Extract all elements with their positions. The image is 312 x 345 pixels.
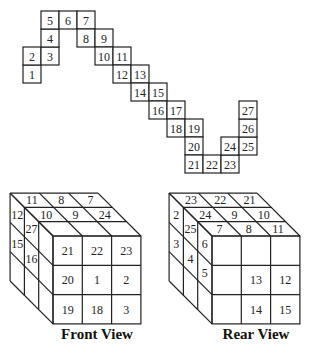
net-cell-label: 24 [224,140,236,154]
top-face-label: 8 [58,193,64,207]
front-face-label: 1 [94,273,100,287]
front-face-label: 23 [120,244,132,258]
net-cell-label: 16 [152,104,164,118]
front-face-label: 13 [250,273,262,287]
net-cell-label: 19 [188,122,200,136]
rear-view-caption: Rear View [223,326,290,342]
net-cell-label: 7 [83,14,89,28]
net-cell-label: 22 [206,158,218,172]
net-cell-label: 20 [188,140,200,154]
net-cell-label: 25 [242,140,254,154]
top-face-label: 8 [246,222,252,236]
top-face-label: 11 [26,193,38,207]
net-cell-label: 2 [29,50,35,64]
net-cell-label: 17 [170,104,182,118]
top-face-label: 7 [217,222,223,236]
net-cell-label: 4 [47,32,53,46]
cube-net-diagram: 1234567891011121314151617181920212223242… [0,0,312,345]
top-face-label: 24 [99,208,111,222]
front-view-cube: 21222320121918311871092412271516 [10,193,141,324]
net-cell-label: 21 [188,158,200,172]
front-face-label: 22 [91,244,103,258]
net-cell-label: 15 [152,86,164,100]
front-face-label: 2 [123,273,129,287]
top-face-label: 23 [185,193,197,207]
net-cell-label: 3 [47,50,53,64]
front-view-caption: Front View [61,326,133,342]
net-cell-label: 23 [224,158,236,172]
front-face-label: 15 [279,303,291,317]
top-face-label: 9 [232,208,238,222]
front-face-label: 20 [62,273,74,287]
net-cell-label: 26 [242,122,254,136]
rear-view-cube: 131214152322212491078112256345 [169,193,300,324]
top-face-label: 11 [272,222,284,236]
net-cell-label: 9 [101,32,107,46]
front-face-label: 19 [62,303,74,317]
top-face-label: 7 [88,193,94,207]
left-face-label: 6 [202,237,208,251]
top-face-label: 10 [40,208,52,222]
net-cell-label: 14 [134,86,146,100]
front-face-label: 14 [250,303,262,317]
left-face-label: 16 [26,252,38,266]
front-face-label: 12 [279,273,291,287]
net-cell-label: 11 [116,50,128,64]
left-face-label: 15 [11,237,23,251]
top-face-label: 10 [258,208,270,222]
left-face-label: 5 [202,266,208,280]
net-cell-label: 1 [29,68,35,82]
net-cell-label: 27 [242,104,254,118]
top-face-label: 22 [214,193,226,207]
unfolded-cube-net: 1234567891011121314151617181920212223242… [23,11,257,173]
top-face-label: 9 [73,208,79,222]
net-cell-label: 6 [65,14,71,28]
left-face-label: 27 [26,222,38,236]
front-face-label: 3 [123,303,129,317]
net-cell-label: 13 [134,68,146,82]
net-cell-label: 18 [170,122,182,136]
left-face-label: 4 [188,252,194,266]
top-face-label: 21 [244,193,256,207]
net-cell-label: 5 [47,14,53,28]
net-cell-label: 12 [116,68,128,82]
left-face-label: 12 [11,208,23,222]
net-cell-label: 8 [83,32,89,46]
top-face-label: 24 [199,208,211,222]
left-face-label: 25 [185,222,197,236]
left-face-label: 2 [173,208,179,222]
net-cell-label: 10 [98,50,110,64]
front-face-label: 21 [62,244,74,258]
front-face-label: 18 [91,303,103,317]
left-face-label: 3 [173,237,179,251]
